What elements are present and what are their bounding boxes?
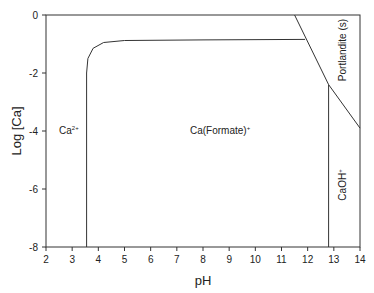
- x-tick-label: 6: [148, 254, 154, 265]
- x-tick-label: 8: [200, 254, 206, 265]
- boundary-line: [295, 15, 360, 128]
- x-tick-label: 4: [96, 254, 102, 265]
- x-tick-label: 7: [174, 254, 180, 265]
- x-tick-label: 3: [69, 254, 75, 265]
- x-tick-label: 9: [226, 254, 232, 265]
- y-tick-label: 0: [32, 10, 38, 21]
- x-tick-label: 5: [122, 254, 128, 265]
- boundary-line: [87, 39, 306, 247]
- y-tick-label: -6: [29, 184, 38, 195]
- caformate-region-label: Ca(Formate)+: [190, 125, 251, 136]
- ca2-region-label: Ca2+: [59, 125, 79, 136]
- y-tick-label: -8: [29, 242, 38, 253]
- axes: 2345678910111213140-2-4-6-8: [29, 10, 366, 266]
- x-tick-label: 13: [328, 254, 340, 265]
- y-tick-label: -2: [29, 68, 38, 79]
- y-axis-label: Log [Ca]: [9, 106, 24, 155]
- caoh-region-label: CaOH+: [337, 169, 348, 201]
- y-tick-label: -4: [29, 126, 38, 137]
- x-tick-label: 14: [354, 254, 366, 265]
- x-axis-label: pH: [195, 273, 212, 288]
- x-tick-label: 10: [250, 254, 262, 265]
- x-tick-label: 11: [276, 254, 287, 265]
- predominance-diagram: 2345678910111213140-2-4-6-8 pH Log [Ca] …: [0, 0, 374, 293]
- x-tick-label: 2: [43, 254, 49, 265]
- portlandite-region-label: Portlandite (s): [337, 19, 348, 81]
- x-tick-label: 12: [302, 254, 314, 265]
